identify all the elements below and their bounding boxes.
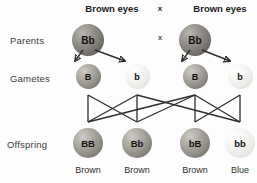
- cross-symbol-heading: x: [153, 4, 167, 13]
- gamete-allele-2: b: [125, 64, 150, 89]
- offspring-phenotype-1: Brown: [62, 165, 114, 175]
- row-label-parents: Parents: [10, 35, 44, 46]
- row-label-gametes: Gametes: [10, 73, 50, 84]
- cross-symbol-parents: x: [153, 33, 167, 42]
- gamete-allele-3: B: [183, 64, 208, 89]
- arrow-parent1-to-gameteb: [95, 50, 125, 61]
- parent-genotype-1: Bb: [72, 24, 104, 56]
- gamete-allele-4: b: [228, 64, 253, 89]
- line-diagonal-right-down: [195, 95, 240, 122]
- offspring-genotype-3: bB: [180, 128, 210, 158]
- line-diagonal-right-up: [195, 95, 240, 122]
- parent-left-phenotype-heading: Brown eyes: [78, 3, 146, 14]
- offspring-phenotype-4: Blue: [214, 165, 257, 175]
- offspring-genotype-4: bb: [225, 128, 255, 158]
- offspring-phenotype-2: Brown: [111, 165, 163, 175]
- row-label-offspring: Offspring: [7, 139, 47, 150]
- line-crossover-right-inner: [137, 95, 195, 122]
- parent-genotype-2: Bb: [179, 24, 211, 56]
- parent-right-phenotype-heading: Brown eyes: [186, 3, 254, 14]
- line-crossover-left-to-right: [137, 95, 240, 122]
- line-crossover-right-to-left: [88, 95, 195, 122]
- line-diagonal-left-down: [88, 95, 137, 122]
- punnett-inheritance-diagram: Brown eyes x Brown eyes Parents Gametes …: [0, 0, 257, 183]
- line-diagonal-left-up: [88, 95, 137, 122]
- offspring-genotype-2: Bb: [122, 128, 152, 158]
- gamete-allele-1: B: [76, 64, 101, 89]
- arrow-parent2-to-gameteb: [202, 50, 230, 61]
- offspring-genotype-1: BB: [73, 128, 103, 158]
